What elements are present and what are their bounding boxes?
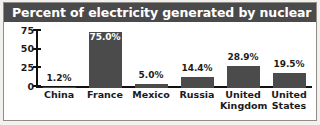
chart-title-bar: Percent of electricity generated by nucl… [4,3,316,22]
x-category-label: France [82,90,128,101]
x-category-label: United States [266,90,312,111]
x-category-label: Russia [174,90,220,101]
y-tick-mark [33,29,41,31]
x-category-label: United Kingdom [220,90,266,111]
bar [181,77,214,88]
bar [273,73,306,88]
bar-value-label: 19.5% [273,59,304,69]
bar [227,66,260,88]
bar-value-label: 14.4% [181,63,212,73]
bar-slot: 14.4% [181,22,214,88]
y-tick-mark [33,85,41,87]
bar-slot: 19.5% [273,22,306,88]
x-category-label: Mexico [128,90,174,101]
y-tick-mark [33,48,41,50]
y-tick-mark [33,66,41,68]
y-tick-label: 25 [21,63,34,72]
chart-figure: Percent of electricity generated by nucl… [0,0,320,125]
bar-slot: 75.0% [89,22,122,88]
x-axis-category-labels: ChinaFranceMexicoRussiaUnited KingdomUni… [36,90,312,118]
bar [43,87,76,88]
bar [135,84,168,88]
y-tick-label: 50 [21,44,34,53]
bar-slot: 1.2% [43,22,76,88]
bar-slot: 5.0% [135,22,168,88]
chart-title: Percent of electricity generated by nucl… [4,3,316,22]
plot-area: 0255075 1.2%75.0%5.0%14.4%28.9%19.5% Chi… [4,22,316,120]
bar-value-label: 1.2% [47,73,72,83]
y-tick-label: 75 [21,26,34,35]
bar-series: 1.2%75.0%5.0%14.4%28.9%19.5% [36,22,312,88]
bar-slot: 28.9% [227,22,260,88]
y-axis-tick-labels: 0255075 [10,22,34,92]
bar-value-label: 5.0% [139,70,164,80]
bar-value-label: 75.0% [89,32,120,42]
bar-value-label: 28.9% [227,52,258,62]
x-category-label: China [36,90,82,101]
